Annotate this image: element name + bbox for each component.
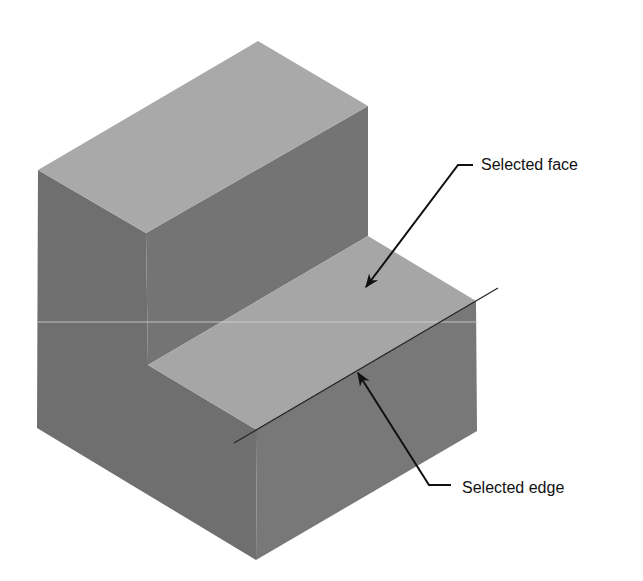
selected-edge-label: Selected edge	[462, 480, 564, 496]
selected-face-label: Selected face	[481, 157, 578, 173]
diagram-canvas: Selected face Selected edge	[0, 0, 643, 581]
